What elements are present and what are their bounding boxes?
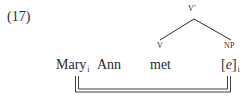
index-subscript: i <box>87 65 89 74</box>
word-mary: Maryi <box>56 57 90 74</box>
word-met: met <box>150 57 171 73</box>
word-empty-category: [e]i <box>221 57 240 74</box>
index-subscript: i <box>238 65 240 74</box>
bracket-close: ] <box>232 57 237 72</box>
binding-line <box>76 76 231 92</box>
tree-branches <box>0 0 243 100</box>
word-mary-text: Mary <box>56 57 86 72</box>
branch-to-v <box>160 19 194 40</box>
branch-to-np <box>194 19 231 40</box>
word-ann: Ann <box>97 57 121 73</box>
